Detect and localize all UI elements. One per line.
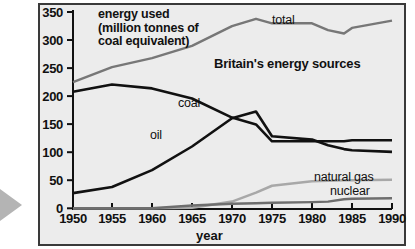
y-tick-label: 150	[29, 117, 63, 132]
y-axis-title-line2: (million tonnes of	[98, 22, 199, 36]
x-tick-label: 1980	[290, 211, 334, 226]
series-line-coal	[73, 85, 392, 142]
figure-root: 350 300 250 200 150 100 50 0 1950 1955 1…	[0, 0, 415, 249]
y-tick-label: 200	[29, 89, 63, 104]
y-tick-label: 50	[29, 173, 63, 188]
y-tick-label: 300	[29, 33, 63, 48]
series-label-nuclear: nuclear	[330, 184, 370, 198]
y-axis-title-line3: coal equivalent)	[98, 35, 199, 49]
series-label-coal: coal	[178, 96, 200, 110]
y-axis-title-line1: energy used	[98, 8, 199, 22]
series-label-oil: oil	[150, 128, 162, 142]
x-tick-label: 1965	[170, 211, 214, 226]
x-tick-label: 1950	[51, 211, 95, 226]
x-tick-label: 1990	[370, 211, 414, 226]
y-tick-label: 250	[29, 61, 63, 76]
x-tick-label: 1960	[130, 211, 174, 226]
x-tick-label: 1975	[250, 211, 294, 226]
y-axis-title: energy used (million tonnes of coal equi…	[98, 8, 199, 49]
series-label-total: total	[272, 13, 295, 27]
x-tick-label: 1970	[210, 211, 254, 226]
x-axis-title: year	[196, 228, 223, 243]
x-tick-label: 1985	[330, 211, 374, 226]
y-tick-label: 350	[29, 5, 63, 20]
chart-title: Britain's energy sources	[214, 56, 360, 71]
series-label-natural-gas: natural gas	[314, 170, 374, 184]
x-tick-label: 1955	[90, 211, 134, 226]
y-tick-label: 100	[29, 145, 63, 160]
